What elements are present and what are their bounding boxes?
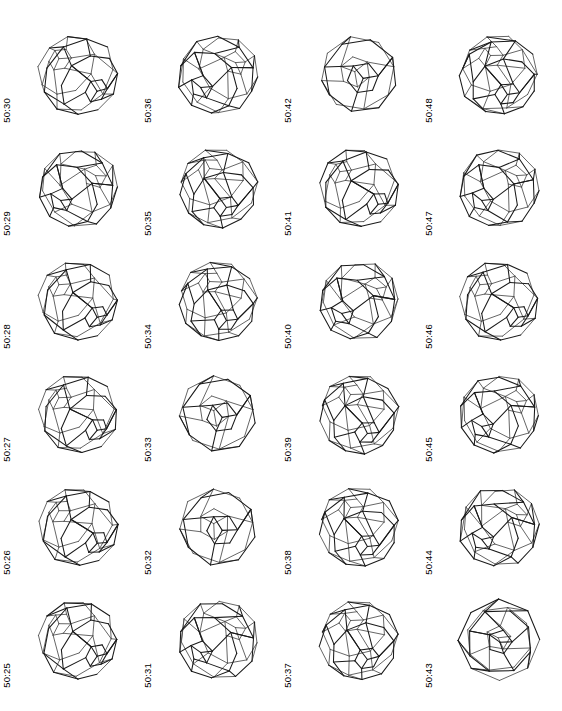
isomer-label: 50:32 [143,550,156,575]
fullerene-wireframe [156,244,282,357]
isomer-panel: 50:33 [141,357,282,470]
fullerene-wireframe [15,244,141,357]
fullerene-wireframe [296,18,422,131]
isomer-label: 50:45 [424,437,437,462]
isomer-panel: 50:44 [422,470,562,583]
isomer-label: 50:46 [424,324,437,349]
isomer-label: 50:43 [424,663,437,688]
fullerene-wireframe [296,131,422,244]
fullerene-wireframe [15,470,141,583]
fullerene-wireframe [437,470,562,583]
isomer-label: 50:25 [2,663,15,688]
fullerene-wireframe [437,244,562,357]
isomer-label: 50:33 [143,437,156,462]
isomer-panel: 50:48 [422,18,562,131]
isomer-panel: 50:47 [422,131,562,244]
isomer-label: 50:31 [143,663,156,688]
fullerene-wireframe [437,18,562,131]
isomer-panel: 50:45 [422,357,562,470]
isomer-panel: 50:36 [141,18,282,131]
isomer-label: 50:47 [424,211,437,236]
fullerene-wireframe [437,583,562,696]
isomer-panel: 50:43 [422,583,562,696]
isomer-label: 50:35 [143,211,156,236]
isomer-panel: 50:38 [281,470,422,583]
isomer-label: 50:38 [283,550,296,575]
fullerene-wireframe [437,131,562,244]
isomer-label: 50:28 [2,324,15,349]
fullerene-wireframe [156,470,282,583]
isomer-panel: 50:37 [281,583,422,696]
bottom-margin [0,696,562,711]
isomer-panel: 50:39 [281,357,422,470]
isomer-label: 50:34 [143,324,156,349]
isomer-panel: 50:34 [141,244,282,357]
top-margin [0,0,562,18]
fullerene-wireframe [156,18,282,131]
fullerene-wireframe [296,244,422,357]
isomer-label: 50:37 [283,663,296,688]
isomer-panel: 50:46 [422,244,562,357]
fullerene-wireframe [15,357,141,470]
fullerene-wireframe [15,18,141,131]
isomer-label: 50:42 [283,98,296,123]
fullerene-wireframe [437,357,562,470]
fullerene-wireframe [296,583,422,696]
isomer-panel: 50:31 [141,583,282,696]
isomer-label: 50:27 [2,437,15,462]
isomer-panel: 50:29 [0,131,141,244]
figure-page: 50:3050:3650:4250:4850:2950:3550:4150:47… [0,0,562,711]
fullerene-wireframe [156,583,282,696]
fullerene-wireframe [156,131,282,244]
isomer-panel: 50:41 [281,131,422,244]
isomer-label: 50:26 [2,550,15,575]
isomer-panel: 50:26 [0,470,141,583]
isomer-label: 50:29 [2,211,15,236]
isomer-label: 50:40 [283,324,296,349]
isomer-panel: 50:42 [281,18,422,131]
fullerene-wireframe [15,131,141,244]
isomer-label: 50:41 [283,211,296,236]
isomer-panel: 50:40 [281,244,422,357]
isomer-label: 50:48 [424,98,437,123]
isomer-panel: 50:28 [0,244,141,357]
isomer-panel: 50:35 [141,131,282,244]
fullerene-wireframe [296,470,422,583]
isomer-label: 50:44 [424,550,437,575]
fullerene-wireframe [156,357,282,470]
isomer-label: 50:36 [143,98,156,123]
isomer-grid: 50:3050:3650:4250:4850:2950:3550:4150:47… [0,0,562,711]
fullerene-wireframe [15,583,141,696]
fullerene-wireframe [296,357,422,470]
isomer-label: 50:30 [2,98,15,123]
isomer-panel: 50:30 [0,18,141,131]
isomer-panel: 50:27 [0,357,141,470]
isomer-panel: 50:25 [0,583,141,696]
isomer-panel: 50:32 [141,470,282,583]
isomer-label: 50:39 [283,437,296,462]
